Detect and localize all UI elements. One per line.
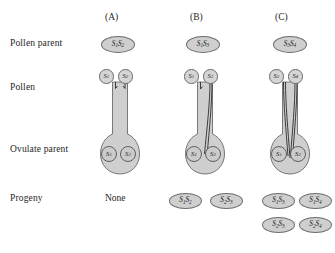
pollen-grain-c-1: S3 <box>269 69 284 84</box>
pollen-grain-b-1: S1 <box>184 69 199 84</box>
pollen-grain-a-2: S2 <box>118 69 133 84</box>
progeny-none-a: None <box>105 193 126 203</box>
panel-caption-c: (C) <box>275 12 288 22</box>
ovule-a-1: S1 <box>101 146 117 162</box>
progeny-c-3: S2S3 <box>262 217 295 233</box>
pollen-grain-b-2: S3 <box>203 69 218 84</box>
progeny-c-2: S1S4 <box>299 193 332 209</box>
progeny-b-2: S2S3 <box>210 193 243 209</box>
row-label-progeny: Progeny <box>10 193 43 203</box>
ovule-c-1: S1 <box>271 146 287 162</box>
row-label-ovulate-parent: Ovulate parent <box>10 144 68 154</box>
row-label-pollen: Pollen <box>10 82 35 92</box>
self-incompatibility-diagram: Pollen parent Pollen Ovulate parent Prog… <box>0 0 335 253</box>
ovule-c-2: S2 <box>290 146 306 162</box>
progeny-c-1: S1S3 <box>262 193 295 209</box>
ovule-b-2: S2 <box>205 146 221 162</box>
pistil-a <box>92 76 148 180</box>
pistil-b <box>177 76 233 180</box>
ovule-a-2: S2 <box>120 146 136 162</box>
pollen-parent-genotype-c: S3S4 <box>273 36 307 53</box>
ovule-b-1: S1 <box>186 146 202 162</box>
panel-caption-a: (A) <box>105 12 118 22</box>
pistil-c <box>262 76 318 180</box>
progeny-b-1: S1S2 <box>169 193 202 209</box>
progeny-c-4: S2S4 <box>299 217 332 233</box>
pollen-parent-genotype-b: S1S3 <box>186 36 220 53</box>
pollen-grain-c-2: S4 <box>288 69 303 84</box>
pollen-grain-a-1: S1 <box>99 69 114 84</box>
pollen-parent-genotype-a: S1S2 <box>101 36 135 53</box>
row-label-pollen-parent: Pollen parent <box>10 38 62 48</box>
panel-caption-b: (B) <box>190 12 203 22</box>
